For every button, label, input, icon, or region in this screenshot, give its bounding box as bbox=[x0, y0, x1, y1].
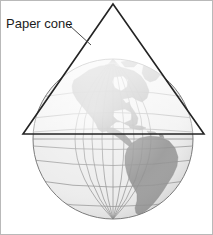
paper-cone-globe-diagram: Paper cone bbox=[1, 1, 213, 235]
figure-container: Paper cone bbox=[0, 0, 213, 235]
cone-annotation: Paper cone bbox=[6, 16, 91, 45]
paper-cone-label: Paper cone bbox=[6, 16, 73, 31]
